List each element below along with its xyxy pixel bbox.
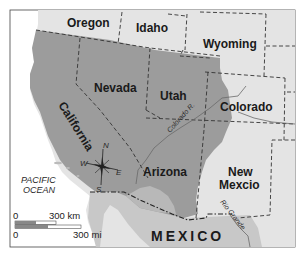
compass-e: E (116, 168, 122, 177)
label-new-mexico-line1: New (228, 165, 253, 179)
label-mexico: MEXICO (151, 228, 224, 244)
compass-s: S (96, 185, 102, 194)
label-oregon: Oregon (67, 16, 110, 30)
label-new-mexico-line2: Mexcio (219, 178, 260, 192)
label-ocean-line2: OCEAN (23, 185, 56, 195)
scale-km-start: 0 (13, 210, 18, 221)
scale-km-end: 300 km (49, 210, 80, 221)
label-wyoming: Wyoming (203, 37, 257, 51)
label-utah: Utah (160, 89, 187, 103)
map: Oregon Idaho Wyoming Nevada Utah Colorad… (0, 0, 303, 258)
label-idaho: Idaho (136, 21, 168, 35)
compass-n: N (103, 141, 109, 150)
label-arizona: Arizona (143, 165, 187, 179)
label-colorado: Colorado (220, 100, 273, 114)
label-ocean-line1: PACIFIC (21, 175, 56, 185)
scale-mi-end: 300 mi (73, 229, 102, 240)
scale-mi-start: 0 (13, 229, 18, 240)
label-nevada: Nevada (94, 81, 137, 95)
